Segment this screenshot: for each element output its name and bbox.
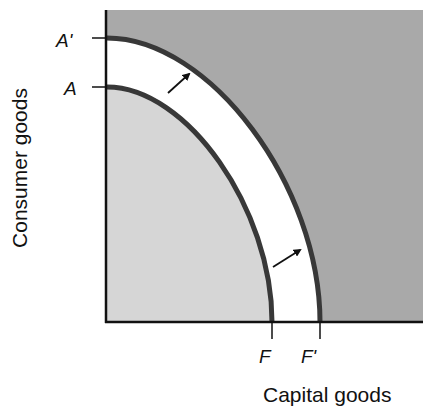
label-f: F bbox=[259, 346, 272, 367]
ppf-diagram: A' A F F' Capital goods Consumer goods bbox=[0, 0, 440, 414]
label-f-prime: F' bbox=[301, 346, 318, 367]
x-axis-title: Capital goods bbox=[263, 383, 391, 406]
label-a-prime: A' bbox=[55, 30, 74, 51]
y-axis-title: Consumer goods bbox=[8, 88, 31, 248]
label-a: A bbox=[63, 78, 77, 99]
